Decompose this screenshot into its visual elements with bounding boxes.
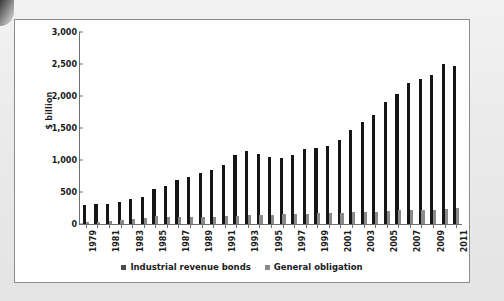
y-axis-tick-mark [79, 32, 83, 33]
bar-general-obligation [410, 210, 413, 224]
bar-group [381, 32, 393, 224]
x-axis-tick-mark [340, 225, 341, 228]
bar-general-obligation [387, 211, 390, 224]
bar-industrial-revenue-bonds [430, 75, 433, 224]
y-axis-tick-mark [79, 160, 83, 161]
bar-general-obligation [97, 222, 100, 224]
bar-industrial-revenue-bonds [361, 122, 364, 224]
bar-general-obligation [306, 214, 309, 224]
x-axis-tick-label: 1987 [182, 230, 191, 252]
bar-group [161, 32, 173, 224]
bar-general-obligation [282, 214, 285, 224]
x-axis-tick-mark [329, 225, 330, 228]
bar-series-container [80, 32, 462, 224]
x-axis-tick-label: 2011 [460, 230, 469, 252]
bar-general-obligation [317, 213, 320, 224]
bar-industrial-revenue-bonds [407, 83, 410, 224]
y-axis-tick-label: 3,000 [33, 28, 77, 37]
x-axis-tick-mark [236, 225, 237, 228]
x-axis-tick-mark [190, 225, 191, 228]
bar-group [173, 32, 185, 224]
y-axis-tick-label: 1,500 [33, 124, 77, 133]
bar-industrial-revenue-bonds [338, 140, 341, 224]
bar-group [312, 32, 324, 224]
bar-industrial-revenue-bonds [419, 79, 422, 224]
legend-swatch-icon [265, 265, 270, 270]
x-axis-tick-mark [364, 225, 365, 228]
chart-figure: $ billion 3,0002,5002,0001,5001,0005000 … [14, 19, 470, 283]
legend-label: General obligation [274, 262, 363, 272]
x-axis-tick-label: 2003 [367, 230, 376, 252]
y-axis-tick-label: 2,500 [33, 60, 77, 69]
bar-group [254, 32, 266, 224]
x-axis-tick-mark [144, 225, 145, 228]
y-axis-tick-mark [79, 64, 83, 65]
bar-group [126, 32, 138, 224]
y-axis-tick-labels: 3,0002,5002,0001,5001,0005000 [31, 20, 77, 282]
bar-general-obligation [259, 215, 262, 224]
bar-group [265, 32, 277, 224]
y-axis-tick-mark [79, 96, 83, 97]
x-axis-tick-mark [248, 225, 249, 228]
x-axis-tick-mark [109, 225, 110, 228]
x-axis-tick-label: 1983 [136, 230, 145, 252]
x-axis-tick-label: 1999 [321, 230, 330, 252]
bar-general-obligation [201, 217, 204, 224]
x-axis-tick-label: 1995 [275, 230, 284, 252]
bar-group [103, 32, 115, 224]
bar-industrial-revenue-bonds [303, 149, 306, 224]
bar-group [358, 32, 370, 224]
x-axis-tick-mark [259, 225, 260, 228]
x-axis-tick-label: 1993 [251, 230, 260, 252]
legend-item-industrial-revenue-bonds: Industrial revenue bonds [121, 262, 250, 272]
bar-general-obligation [375, 212, 378, 224]
x-axis-tick-mark [445, 225, 446, 228]
bar-general-obligation [144, 218, 147, 224]
bar-group [149, 32, 161, 224]
bar-group [207, 32, 219, 224]
bar-industrial-revenue-bonds [453, 66, 456, 224]
bar-group [450, 32, 462, 224]
x-axis-tick-label: 1991 [228, 230, 237, 252]
x-axis-tick-mark [375, 225, 376, 228]
x-axis-tick-mark [410, 225, 411, 228]
bar-industrial-revenue-bonds [222, 165, 225, 224]
legend-label: Industrial revenue bonds [130, 262, 250, 272]
bar-group [219, 32, 231, 224]
x-axis-tick-mark [294, 225, 295, 228]
bar-group [230, 32, 242, 224]
bar-general-obligation [294, 214, 297, 224]
x-axis-tick-mark [97, 225, 98, 228]
x-axis-tick-mark [283, 225, 284, 228]
bar-general-obligation [340, 213, 343, 224]
y-axis-tick-label: 2,000 [33, 92, 77, 101]
bar-group [300, 32, 312, 224]
bar-group [404, 32, 416, 224]
bar-industrial-revenue-bonds [349, 130, 352, 224]
bar-group [335, 32, 347, 224]
bar-general-obligation [271, 215, 274, 224]
x-axis-tick-mark [456, 225, 457, 228]
legend-swatch-icon [121, 265, 126, 270]
x-axis-tick-mark [225, 225, 226, 228]
bar-general-obligation [132, 219, 135, 224]
legend-item-general-obligation: General obligation [265, 262, 363, 272]
bar-general-obligation [329, 213, 332, 224]
bar-general-obligation [155, 216, 158, 224]
bar-general-obligation [109, 221, 112, 224]
chart-legend: Industrial revenue bonds General obligat… [15, 262, 469, 272]
bar-general-obligation [248, 215, 251, 224]
x-axis-tick-mark [387, 225, 388, 228]
x-axis-tick-label: 2009 [437, 230, 446, 252]
bar-general-obligation [398, 210, 401, 224]
bar-industrial-revenue-bonds [395, 94, 398, 224]
bar-group [416, 32, 428, 224]
bar-general-obligation [120, 220, 123, 224]
bar-group [196, 32, 208, 224]
x-axis-tick-label: 1989 [205, 230, 214, 252]
bar-group [242, 32, 254, 224]
x-axis-tick-mark [213, 225, 214, 228]
x-axis-tick-mark [306, 225, 307, 228]
bar-general-obligation [364, 212, 367, 224]
bar-general-obligation [225, 216, 228, 224]
